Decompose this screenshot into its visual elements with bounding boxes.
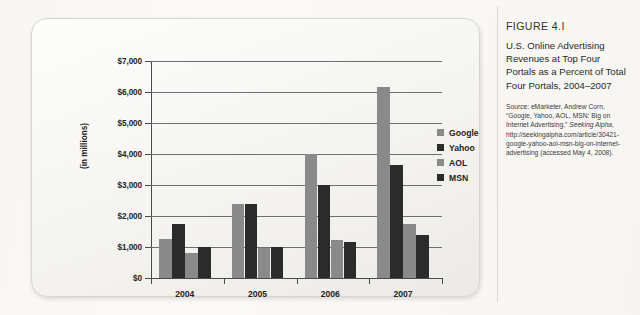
- page-background: (in millions) $0$1,000$2,000$3,000$4,000…: [0, 0, 640, 315]
- y-tick-label: $7,000: [118, 57, 142, 66]
- figure-title: U.S. Online Advertising Revenues at Top …: [506, 39, 632, 92]
- y-tick-mark: [145, 61, 151, 62]
- bar-aol-2007: [403, 224, 416, 278]
- x-tick-mark: [442, 278, 443, 284]
- y-tick-mark: [145, 123, 151, 124]
- bar-yahoo-2007: [390, 165, 403, 278]
- y-tick-mark: [145, 154, 151, 155]
- bar-aol-2005: [258, 248, 271, 278]
- x-tick-mark: [369, 278, 370, 284]
- y-tick-mark: [145, 247, 151, 248]
- y-tick-label: $2,000: [118, 212, 142, 221]
- x-tick-mark: [224, 278, 225, 284]
- x-tick-label-2005: 2005: [248, 289, 267, 299]
- bar-msn-2006: [344, 242, 357, 278]
- figure-number: FIGURE 4.I: [506, 20, 632, 32]
- y-tick-mark: [145, 185, 151, 186]
- bar-google-2007: [377, 87, 390, 278]
- y-tick-mark: [145, 92, 151, 93]
- legend-label-msn: MSN: [449, 173, 468, 183]
- legend-swatch-msn: [437, 174, 444, 181]
- legend-item-google[interactable]: Google: [437, 125, 499, 140]
- caption-divider: [497, 6, 498, 302]
- legend-item-msn[interactable]: MSN: [437, 170, 499, 185]
- legend-item-aol[interactable]: AOL: [437, 155, 499, 170]
- y-tick-label: $5,000: [118, 119, 142, 128]
- legend-label-google: Google: [449, 128, 479, 138]
- x-tick-mark: [151, 278, 152, 284]
- bar-msn-2007: [416, 235, 429, 278]
- y-tick-label: $1,000: [118, 243, 142, 252]
- chart-legend: GoogleYahooAOLMSN: [437, 125, 499, 185]
- y-tick-label: $6,000: [118, 88, 142, 97]
- y-tick-label: $3,000: [118, 181, 142, 190]
- legend-label-aol: AOL: [449, 158, 467, 168]
- y-tick-label: $4,000: [118, 150, 142, 159]
- gridline: [151, 154, 442, 155]
- legend-swatch-google: [437, 129, 444, 136]
- bar-google-2005: [232, 204, 245, 278]
- bar-msn-2004: [198, 247, 211, 278]
- bar-google-2006: [305, 154, 318, 278]
- gridline: [151, 123, 442, 124]
- legend-item-yahoo[interactable]: Yahoo: [437, 140, 499, 155]
- y-tick-label: $0: [133, 274, 142, 283]
- x-tick-label-2006: 2006: [321, 289, 340, 299]
- legend-label-yahoo: Yahoo: [449, 143, 475, 153]
- legend-swatch-yahoo: [437, 144, 444, 151]
- bar-yahoo-2006: [318, 185, 331, 278]
- bar-aol-2006: [331, 240, 344, 278]
- x-tick-label-2004: 2004: [175, 289, 194, 299]
- figure-source-note: Source: eMarketer, Andrew Corn, “Google,…: [506, 102, 632, 158]
- bar-google-2004: [159, 239, 172, 278]
- gridline: [151, 92, 442, 93]
- x-tick-label-2007: 2007: [393, 289, 412, 299]
- plot-area: $0$1,000$2,000$3,000$4,000$5,000$6,000$7…: [151, 61, 442, 278]
- bar-yahoo-2005: [245, 204, 258, 278]
- bar-yahoo-2004: [172, 224, 185, 278]
- source-publication: Seeking Alpha: [569, 121, 612, 128]
- bar-aol-2004: [185, 253, 198, 278]
- y-tick-mark: [145, 216, 151, 217]
- bar-msn-2005: [271, 247, 284, 278]
- figure-caption: FIGURE 4.I U.S. Online Advertising Reven…: [506, 20, 632, 158]
- chart-panel: (in millions) $0$1,000$2,000$3,000$4,000…: [31, 18, 480, 297]
- legend-swatch-aol: [437, 159, 444, 166]
- y-axis-label: (in millions): [80, 123, 89, 169]
- x-tick-mark: [297, 278, 298, 284]
- gridline: [151, 61, 442, 62]
